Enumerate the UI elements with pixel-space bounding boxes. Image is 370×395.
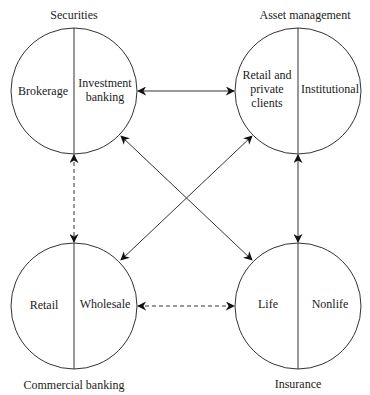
asset-management-left-line-3: clients (237, 96, 297, 110)
securities-right-label: Investment banking (76, 76, 134, 104)
securities-left-label: Brokerage (14, 84, 72, 98)
insurance-right-label: Nonlife (300, 297, 360, 311)
commercial-banking-title: Commercial banking (22, 378, 126, 392)
commercial-banking-right-label: Wholesale (76, 297, 134, 311)
insurance-title: Insurance (268, 377, 328, 391)
securities-title: Securities (44, 8, 104, 22)
asset-management-left-line-2: private (237, 82, 297, 96)
securities-right-line-1: Investment (76, 76, 134, 90)
asset-management-title: Asset management (250, 8, 360, 22)
asset-management-left-line-1: Retail and (237, 68, 297, 82)
securities-right-line-2: banking (76, 90, 134, 104)
asset-management-right-label: Institutional (300, 82, 360, 96)
insurance-left-label: Life (240, 297, 296, 311)
diagram-canvas (0, 0, 370, 395)
asset-management-left-label: Retail and private clients (237, 68, 297, 110)
commercial-banking-left-label: Retail (16, 298, 72, 312)
